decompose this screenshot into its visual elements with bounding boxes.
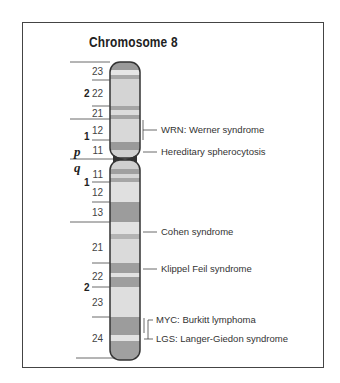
arm-label-p: p <box>73 144 81 159</box>
annotation-connectors <box>143 120 157 339</box>
arm-label-q: q <box>74 160 81 175</box>
band-label-q11: 11 <box>93 169 104 180</box>
annotation-wrn: WRN: Werner syndrome <box>161 124 264 135</box>
band-label-q22: 22 <box>92 271 104 282</box>
region-label-q2: 2 <box>84 282 90 293</box>
band-label-p11: 11 <box>93 145 104 156</box>
annotation-klippel-feil: Klippel Feil syndrome <box>161 263 252 274</box>
p-arm <box>110 62 140 158</box>
region-label-p1: 1 <box>84 131 90 142</box>
annotation-myc: MYC: Burkitt lymphoma <box>156 314 256 325</box>
region-label-p2: 2 <box>84 88 90 99</box>
band-label-p23: 23 <box>92 66 104 77</box>
band-label-q21: 21 <box>92 242 104 253</box>
chromosome-ideogram: 23 22 21 12 11 11 12 13 21 22 23 24 2 1 … <box>0 0 340 383</box>
band-label-q12: 12 <box>92 187 104 198</box>
annotation-cohen: Cohen syndrome <box>161 226 233 237</box>
annotation-lgs: LGS: Langer-Giedon syndrome <box>156 333 288 344</box>
band-label-p12: 12 <box>92 125 104 136</box>
band-label-q23: 23 <box>92 297 104 308</box>
band-label-p21: 21 <box>92 108 104 119</box>
q-arm <box>110 160 140 360</box>
band-label-p22: 22 <box>92 88 104 99</box>
band-label-q13: 13 <box>92 207 104 218</box>
annotation-hereditary-spherocytosis: Hereditary spherocytosis <box>161 146 266 157</box>
region-label-q1: 1 <box>84 177 90 188</box>
band-label-q24: 24 <box>92 333 104 344</box>
